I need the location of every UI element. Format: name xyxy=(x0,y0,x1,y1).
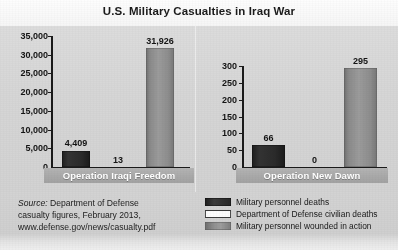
y-axis-tick-right-2: 100 xyxy=(222,129,237,138)
bar-right-0 xyxy=(252,145,285,167)
y-axis-tick-left-3: 15,000 xyxy=(20,106,48,115)
y-axis-tick-left-5: 25,000 xyxy=(20,69,48,78)
y-axis-tick-labels-left: 05,00010,00015,00020,00025,00030,00035,0… xyxy=(2,26,48,192)
y-axis-tick-right-5: 250 xyxy=(222,78,237,87)
legend-label-2: Military personnel wounded in action xyxy=(236,222,371,230)
source-line1: Department of Defense xyxy=(48,198,139,208)
bar-value-right-2: 295 xyxy=(338,57,384,66)
legend-swatch-2 xyxy=(205,222,231,230)
y-axis-tick-left-2: 10,000 xyxy=(20,125,48,134)
legend-item-0: Military personnel deaths xyxy=(205,196,395,208)
bar-value-left-1: 13 xyxy=(95,156,141,165)
bar-left-2 xyxy=(146,48,174,167)
legend: Military personnel deathsDepartment of D… xyxy=(205,196,395,233)
chart-figure: U.S. Military Casualties in Iraq War 05,… xyxy=(0,0,398,250)
bar-left-0 xyxy=(62,151,90,168)
y-axis-tick-right-3: 150 xyxy=(222,112,237,121)
category-label-right: Operation New Dawn xyxy=(264,170,361,181)
legend-label-0: Military personnel deaths xyxy=(236,198,329,206)
y-axis-tick-left-4: 20,000 xyxy=(20,88,48,97)
category-label-left: Operation Iraqi Freedom xyxy=(63,170,176,181)
y-axis-tick-left-6: 30,000 xyxy=(20,50,48,59)
bar-value-left-2: 31,926 xyxy=(137,37,183,46)
y-axis-tick-right-4: 200 xyxy=(222,95,237,104)
bar-value-left-0: 4,409 xyxy=(53,139,99,148)
legend-swatch-0 xyxy=(205,198,231,206)
category-label-band-left: Operation Iraqi Freedom xyxy=(44,168,194,183)
y-axis-line-right xyxy=(242,66,244,168)
page-title: U.S. Military Casualties in Iraq War xyxy=(0,5,398,17)
bar-value-right-1: 0 xyxy=(292,156,338,165)
y-axis-tick-left-7: 35,000 xyxy=(20,32,48,41)
source-line3: www.defense.gov/news/casualty.pdf xyxy=(18,222,155,232)
bar-value-right-0: 66 xyxy=(246,134,292,143)
source-line2: casualty figures, February 2013, xyxy=(18,210,141,220)
panel-operation-iraqi-freedom: 05,00010,00015,00020,00025,00030,00035,0… xyxy=(0,26,194,192)
source-prefix: Source: xyxy=(18,198,48,208)
y-axis-tick-right-6: 300 xyxy=(222,62,237,71)
plot-area: 05,00010,00015,00020,00025,00030,00035,0… xyxy=(0,26,398,192)
legend-item-2: Military personnel wounded in action xyxy=(205,220,395,232)
y-axis-tick-labels-right: 050100150200250300 xyxy=(195,26,237,192)
category-label-band-right: Operation New Dawn xyxy=(236,168,388,183)
figure-footer: Source: Department of Defense casualty f… xyxy=(0,192,398,250)
panel-operation-new-dawn: 050100150200250300 660295 Operation New … xyxy=(195,26,398,192)
legend-label-1: Department of Defense civilian deaths xyxy=(236,210,378,218)
legend-swatch-1 xyxy=(205,210,231,218)
y-axis-tick-right-1: 50 xyxy=(227,146,237,155)
source-note: Source: Department of Defense casualty f… xyxy=(18,197,196,234)
bar-right-2 xyxy=(344,68,377,167)
y-axis-tick-left-1: 5,000 xyxy=(25,144,48,153)
legend-item-1: Department of Defense civilian deaths xyxy=(205,208,395,220)
